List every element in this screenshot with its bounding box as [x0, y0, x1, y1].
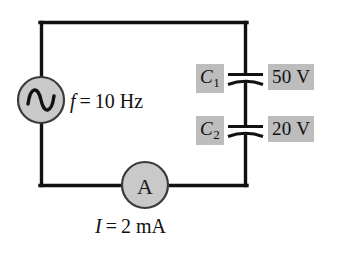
frequency-equals: =	[80, 90, 91, 112]
ammeter-symbol: A	[122, 162, 168, 208]
capacitor-2-voltage: 20 V	[268, 116, 314, 142]
current-equals: =	[106, 215, 117, 237]
current-value: 2 mA	[121, 215, 166, 237]
frequency-value: 10 Hz	[95, 90, 143, 112]
ac-source-symbol	[18, 77, 64, 123]
capacitor-1-subscript: 1	[213, 75, 220, 90]
current-variable: I	[95, 215, 102, 237]
circuit-diagram-figure: A C1 50 V C2 20 V f=10 Hz I=2 mA	[0, 0, 345, 254]
ammeter-letter: A	[137, 174, 153, 199]
capacitor-1-label: C1	[196, 64, 224, 93]
capacitor-2-subscript: 2	[213, 127, 220, 142]
frequency-variable: f	[70, 90, 76, 112]
capacitor-2-name: C	[200, 118, 213, 139]
capacitor-2-label: C2	[196, 116, 224, 145]
current-label: I=2 mA	[95, 216, 166, 236]
frequency-label: f=10 Hz	[70, 91, 143, 111]
capacitor-1-voltage: 50 V	[268, 64, 314, 90]
capacitor-1-name: C	[200, 66, 213, 87]
